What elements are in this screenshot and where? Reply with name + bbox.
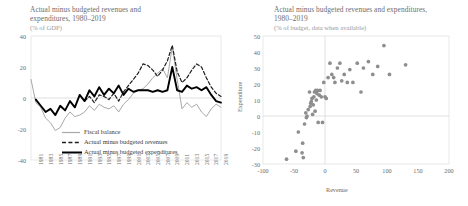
scatter-point bbox=[376, 65, 380, 69]
right-yaxis-label: Expenditure bbox=[236, 82, 243, 112]
scatter-point bbox=[322, 81, 326, 85]
scatter-point bbox=[318, 89, 322, 93]
scatter-point bbox=[314, 98, 318, 102]
scatter-point bbox=[342, 73, 346, 77]
scatter-point bbox=[294, 149, 298, 153]
scatter-point bbox=[311, 113, 315, 117]
legend-label-revenues: Actual minus budgeted revenues bbox=[84, 138, 168, 145]
left-chart-subtitle: (% of GDP) bbox=[30, 24, 62, 32]
scatter-point bbox=[303, 122, 307, 126]
right-ytick-neg10: -10 bbox=[236, 129, 260, 136]
right-ytick-50: 50 bbox=[236, 33, 260, 40]
scatter-point bbox=[296, 130, 300, 134]
scatter-point bbox=[301, 141, 305, 145]
right-ytick-0: 0 bbox=[236, 113, 260, 120]
scatter-point bbox=[371, 73, 375, 77]
right-plot-frame bbox=[263, 36, 449, 164]
scatter-point bbox=[310, 100, 314, 104]
scatter-point bbox=[355, 61, 359, 65]
right-xtick-50: 50 bbox=[343, 167, 369, 174]
right-xtick-0: 0 bbox=[312, 167, 338, 174]
scatter-point bbox=[312, 95, 316, 99]
scatter-point bbox=[311, 103, 315, 107]
scatter-point bbox=[313, 109, 317, 113]
right-ytick-30: 30 bbox=[236, 65, 260, 72]
right-xtick-neg100: -100 bbox=[250, 167, 276, 174]
scatter-point bbox=[348, 68, 352, 72]
scatter-point bbox=[333, 81, 337, 85]
right-xtick-150: 150 bbox=[405, 167, 431, 174]
scatter-point bbox=[336, 66, 340, 70]
right-xaxis-label: Revenue bbox=[326, 186, 348, 193]
left-ytick-40: 40 bbox=[4, 33, 26, 40]
scatter-point bbox=[300, 151, 304, 155]
right-xtick-200: 200 bbox=[436, 167, 462, 174]
scatter-point bbox=[340, 79, 344, 83]
scatter-point bbox=[351, 81, 355, 85]
scatter-point bbox=[285, 157, 289, 161]
scatter-point bbox=[404, 63, 408, 67]
scatter-point bbox=[362, 66, 366, 70]
scatter-point bbox=[308, 90, 312, 94]
scatter-point bbox=[359, 90, 363, 94]
right-ytick-neg20: -20 bbox=[236, 145, 260, 152]
scatter-point bbox=[332, 76, 336, 80]
scatter-point bbox=[388, 73, 392, 77]
right-xtick-neg50: -50 bbox=[281, 167, 307, 174]
scatter-point bbox=[316, 121, 320, 125]
scatter-point bbox=[328, 61, 332, 65]
legend-label-fiscal-balance: Fiscal balance bbox=[84, 128, 120, 135]
scatter-point bbox=[301, 156, 305, 160]
scatter-point bbox=[345, 81, 349, 85]
scatter-point bbox=[321, 121, 325, 125]
left-chart-title: Actual minus budgeted revenues and expen… bbox=[30, 5, 180, 24]
scatter-point bbox=[382, 44, 386, 48]
scatter-point bbox=[326, 76, 330, 80]
scatter-point bbox=[330, 73, 334, 77]
right-chart-subtitle: (% of budget, data when available) bbox=[274, 24, 366, 32]
legend-label-expenditures: Actual minus budgeted expenditures bbox=[84, 148, 178, 155]
right-chart-title: Actual minus budgeted revenues and expen… bbox=[274, 5, 434, 24]
scatter-point bbox=[324, 97, 328, 101]
scatter-point bbox=[367, 60, 371, 64]
figure-root: Actual minus budgeted revenues and expen… bbox=[0, 0, 468, 206]
scatter-point bbox=[305, 114, 309, 118]
left-ytick-0: 0 bbox=[4, 95, 26, 102]
chart-panel-left: Actual minus budgeted revenues and expen… bbox=[0, 0, 234, 206]
scatter-point bbox=[306, 108, 310, 112]
left-ytick-20: 20 bbox=[4, 64, 26, 71]
right-ytick-40: 40 bbox=[236, 49, 260, 56]
scatter-point bbox=[338, 61, 342, 65]
chart-panel-right: Actual minus budgeted revenues and expen… bbox=[234, 0, 468, 206]
scatter-point bbox=[319, 95, 323, 99]
scatter-point bbox=[304, 111, 308, 115]
right-xtick-100: 100 bbox=[374, 167, 400, 174]
